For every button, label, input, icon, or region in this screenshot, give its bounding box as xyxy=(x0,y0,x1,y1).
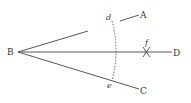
label-f-small: f xyxy=(144,38,150,47)
label-d-small: d xyxy=(106,13,111,22)
label-b: B xyxy=(7,47,14,57)
ray-bc xyxy=(18,52,139,89)
label-a: A xyxy=(139,10,147,20)
arc-de xyxy=(112,21,116,81)
angle-bisector-diagram: B A D C d e f xyxy=(0,0,191,103)
label-c: C xyxy=(140,86,147,96)
label-e-small: e xyxy=(107,81,112,90)
label-d: D xyxy=(173,48,180,58)
ray-ba xyxy=(18,15,139,52)
